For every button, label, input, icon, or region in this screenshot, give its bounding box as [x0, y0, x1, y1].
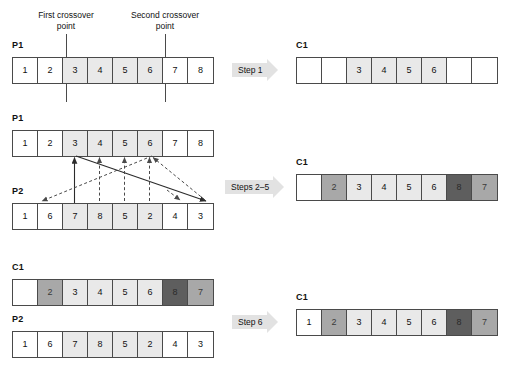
diagram-canvas: First crossover point Second crossover p… — [0, 0, 519, 373]
gene-cell: 5 — [113, 280, 138, 305]
gene-cell: 6 — [138, 131, 163, 156]
gene-cell: 3 — [347, 58, 372, 83]
gene-value: 3 — [198, 212, 203, 221]
gene-value: 3 — [356, 183, 361, 192]
gene-value: 8 — [198, 139, 203, 148]
gene-value: 2 — [331, 318, 336, 327]
chromosome-c1-steps2to5: 2345687 — [296, 174, 498, 201]
gene-cell: 4 — [372, 175, 397, 200]
gene-cell: 7 — [63, 204, 88, 229]
gene-value: 6 — [147, 66, 152, 75]
gene-cell: 2 — [138, 204, 163, 229]
gene-value: 1 — [22, 139, 27, 148]
step-arrow-steps2to5-body: Steps 2–5 — [225, 180, 273, 194]
gene-cell: 1 — [13, 131, 38, 156]
gene-value: 1 — [306, 318, 311, 327]
chromosome-p1-mid: 12345678 — [12, 130, 214, 157]
gene-cell: 5 — [113, 332, 138, 357]
gene-value: 3 — [72, 288, 77, 297]
chromosome-c1-bottom: 2345687 — [12, 279, 214, 306]
step-arrow-step1-head — [267, 59, 278, 81]
gene-cell: 3 — [63, 280, 88, 305]
gene-value: 3 — [356, 318, 361, 327]
gene-value: 8 — [456, 183, 461, 192]
gene-cell — [13, 280, 38, 305]
gene-cell: 5 — [113, 204, 138, 229]
gene-value: 3 — [356, 66, 361, 75]
gene-value: 7 — [198, 288, 203, 297]
gene-cell: 1 — [297, 310, 322, 335]
gene-cell — [447, 58, 472, 83]
gene-value: 4 — [172, 212, 177, 221]
step-arrow-step6-body: Step 6 — [232, 315, 267, 329]
first-crossover-point-label-line2: point — [23, 21, 109, 32]
gene-value: 4 — [381, 66, 386, 75]
gene-cell: 6 — [422, 310, 447, 335]
chromosome-p2-mid: 16785243 — [12, 203, 214, 230]
row-label-c1-bottom: C1 — [12, 262, 24, 272]
gene-cell: 3 — [347, 175, 372, 200]
gene-cell: 7 — [188, 280, 213, 305]
mapping-arrow-dashed-diagonal-right — [153, 158, 205, 201]
gene-value: 4 — [172, 340, 177, 349]
gene-cell: 7 — [472, 310, 497, 335]
gene-value: 8 — [456, 318, 461, 327]
gene-cell: 4 — [372, 310, 397, 335]
gene-value: 1 — [22, 340, 27, 349]
gene-value: 8 — [198, 66, 203, 75]
step-arrow-step6-head — [267, 311, 278, 333]
gene-value: 2 — [47, 288, 52, 297]
row-label-p1-mid: P1 — [12, 113, 23, 123]
gene-value: 6 — [47, 212, 52, 221]
gene-cell: 5 — [397, 175, 422, 200]
gene-value: 7 — [482, 183, 487, 192]
chromosome-p2-bottom: 16785243 — [12, 331, 214, 358]
gene-value: 2 — [47, 139, 52, 148]
gene-value: 8 — [97, 340, 102, 349]
gene-cell: 4 — [163, 332, 188, 357]
gene-value: 4 — [381, 183, 386, 192]
second-crossover-point-label-line1: Second crossover — [122, 10, 208, 21]
gene-cell — [297, 58, 322, 83]
gene-value: 6 — [431, 318, 436, 327]
gene-value: 3 — [198, 340, 203, 349]
gene-value: 1 — [22, 66, 27, 75]
gene-cell: 1 — [13, 204, 38, 229]
gene-cell: 1 — [13, 58, 38, 83]
step-arrow-step6: Step 6 — [232, 311, 278, 333]
gene-value: 4 — [97, 139, 102, 148]
gene-cell: 8 — [447, 175, 472, 200]
gene-value: 7 — [172, 139, 177, 148]
gene-value: 7 — [482, 318, 487, 327]
gene-cell: 8 — [163, 280, 188, 305]
row-label-c1-step6: C1 — [296, 292, 308, 302]
gene-value: 6 — [431, 183, 436, 192]
gene-cell: 8 — [447, 310, 472, 335]
gene-value: 7 — [72, 340, 77, 349]
step-arrow-step1-label: Step 1 — [238, 65, 263, 75]
gene-cell: 3 — [188, 204, 213, 229]
gene-cell: 3 — [63, 131, 88, 156]
gene-value: 4 — [381, 318, 386, 327]
gene-value: 1 — [22, 212, 27, 221]
gene-cell: 5 — [397, 310, 422, 335]
gene-cell: 5 — [397, 58, 422, 83]
mapping-arrow-dashed-stub — [167, 190, 180, 200]
gene-cell: 2 — [38, 280, 63, 305]
gene-value: 2 — [47, 66, 52, 75]
gene-value: 5 — [122, 288, 127, 297]
gene-cell: 3 — [188, 332, 213, 357]
step-arrow-steps2to5-head — [273, 176, 284, 198]
gene-cell — [322, 58, 347, 83]
gene-cell: 3 — [347, 310, 372, 335]
gene-value: 5 — [406, 66, 411, 75]
gene-cell: 5 — [113, 58, 138, 83]
gene-cell: 2 — [322, 310, 347, 335]
gene-cell: 1 — [13, 332, 38, 357]
gene-value: 5 — [122, 139, 127, 148]
gene-value: 3 — [72, 139, 77, 148]
step-arrow-steps2to5: Steps 2–5 — [225, 176, 284, 198]
chromosome-c1-step6: 12345687 — [296, 309, 498, 336]
gene-cell: 8 — [88, 204, 113, 229]
gene-value: 5 — [406, 318, 411, 327]
